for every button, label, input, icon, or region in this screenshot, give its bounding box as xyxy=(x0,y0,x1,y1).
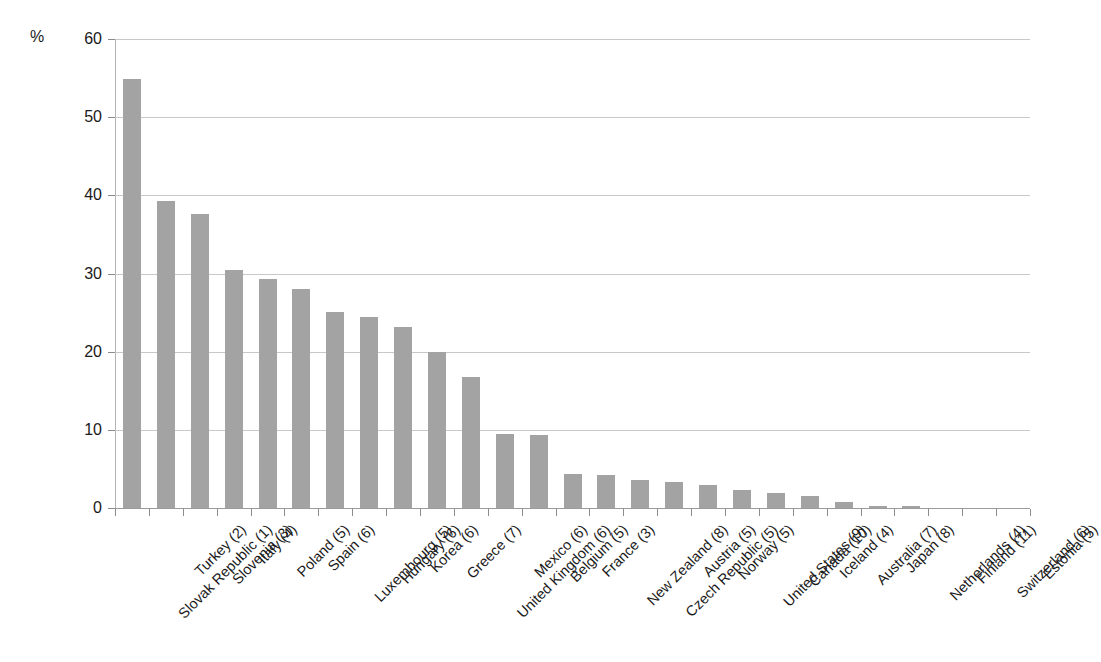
gridline xyxy=(115,117,1030,118)
gridline xyxy=(115,195,1030,196)
y-axis-tick xyxy=(108,195,115,196)
x-axis-tick xyxy=(352,509,353,516)
x-axis-tick xyxy=(556,509,557,516)
bar xyxy=(631,480,649,508)
gridline xyxy=(115,274,1030,275)
x-axis-tick xyxy=(861,509,862,516)
x-axis-tick xyxy=(996,509,997,516)
bar xyxy=(733,490,751,508)
x-axis-tick xyxy=(589,509,590,516)
bar xyxy=(496,434,514,508)
bar xyxy=(191,214,209,508)
x-axis-tick xyxy=(793,509,794,516)
y-axis-tick-label: 10 xyxy=(58,422,102,438)
bar xyxy=(259,279,277,508)
y-axis-tick-label: 50 xyxy=(58,109,102,125)
bar xyxy=(699,485,717,508)
y-axis-tick-label: 20 xyxy=(58,344,102,360)
bar xyxy=(665,482,683,508)
bar xyxy=(428,352,446,508)
bar xyxy=(767,493,785,508)
y-axis-tick-label: 60 xyxy=(58,31,102,47)
bar xyxy=(360,317,378,509)
gridline xyxy=(115,39,1030,40)
y-axis-tick xyxy=(108,352,115,353)
bar xyxy=(157,201,175,508)
x-axis-tick xyxy=(759,509,760,516)
x-axis-tick xyxy=(386,509,387,516)
bar xyxy=(326,312,344,508)
gridline xyxy=(115,352,1030,353)
gridline xyxy=(115,508,1030,509)
x-axis-tick xyxy=(318,509,319,516)
x-axis-tick xyxy=(284,509,285,516)
bar xyxy=(564,474,582,508)
x-axis-tick xyxy=(894,509,895,516)
x-axis-tick xyxy=(962,509,963,516)
x-axis-tick xyxy=(217,509,218,516)
bar xyxy=(801,496,819,509)
bar xyxy=(869,506,887,508)
y-axis-tick-label: 40 xyxy=(58,187,102,203)
y-axis-tick xyxy=(108,508,115,509)
x-axis-tick xyxy=(1030,509,1031,516)
bar xyxy=(902,506,920,508)
x-axis-tick xyxy=(827,509,828,516)
x-axis-tick xyxy=(623,509,624,516)
x-axis-tick xyxy=(251,509,252,516)
x-axis-tick xyxy=(488,509,489,516)
y-axis-tick xyxy=(108,39,115,40)
bar xyxy=(597,475,615,508)
bar xyxy=(530,435,548,508)
x-axis-tick xyxy=(454,509,455,516)
x-axis-tick xyxy=(115,509,116,516)
x-axis-tick xyxy=(928,509,929,516)
y-axis-tick xyxy=(108,430,115,431)
bar xyxy=(835,502,853,508)
bar xyxy=(123,79,141,508)
x-axis-tick xyxy=(657,509,658,516)
bar xyxy=(292,289,310,508)
bar xyxy=(462,377,480,508)
bar xyxy=(225,270,243,508)
x-axis-tick xyxy=(691,509,692,516)
x-axis-tick xyxy=(183,509,184,516)
y-axis-tick-label: 0 xyxy=(58,500,102,516)
bar xyxy=(394,327,412,508)
x-axis-tick xyxy=(149,509,150,516)
plot-area xyxy=(115,39,1030,508)
x-axis-tick xyxy=(725,509,726,516)
x-axis-tick xyxy=(420,509,421,516)
gridline xyxy=(115,430,1030,431)
y-axis-unit-label: % xyxy=(30,29,44,45)
y-axis-tick xyxy=(108,274,115,275)
x-axis-tick xyxy=(522,509,523,516)
y-axis-tick xyxy=(108,117,115,118)
y-axis-tick-label: 30 xyxy=(58,266,102,282)
